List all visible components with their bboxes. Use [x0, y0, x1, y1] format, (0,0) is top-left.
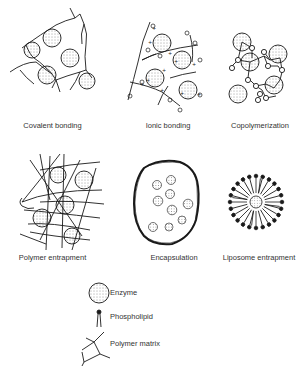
caption-encapsulation: Encapsulation — [144, 253, 204, 262]
legend-label-polymer-matrix: Polymer matrix — [110, 339, 160, 348]
svg-text:+: + — [174, 58, 178, 64]
enzyme-icon — [87, 281, 111, 305]
phospholipid-icon — [93, 309, 105, 329]
ionic-bonding-illustration: +++ +++ +++ ++ — [100, 0, 210, 110]
panel-ionic-bonding: +++ +++ +++ ++ Ionic bonding — [100, 0, 210, 140]
caption-liposome-entrapment: Liposome entrapment — [214, 253, 304, 262]
caption-covalent-bonding: Covalent bonding — [0, 121, 105, 130]
caption-copolymerization: Copolymerization — [220, 121, 300, 130]
panel-covalent-bonding: Covalent bonding — [0, 0, 105, 140]
svg-text:+: + — [146, 77, 150, 83]
panel-liposome-entrapment: Liposome entrapment — [200, 140, 308, 270]
svg-text:+: + — [162, 67, 166, 73]
caption-ionic-bonding: Ionic bonding — [128, 121, 208, 130]
svg-text:+: + — [168, 50, 172, 56]
panel-copolymerization: Copolymerization — [200, 0, 308, 140]
legend-label-phospholipid: Phospholipid — [110, 312, 153, 321]
panel-encapsulation: Encapsulation — [100, 140, 210, 270]
panel-polymer-entrapment: Polymer entrapment — [0, 140, 110, 270]
legend-label-enzyme: Enzyme — [110, 288, 137, 297]
svg-text:+: + — [160, 87, 164, 93]
polymer-entrapment-illustration — [0, 140, 110, 250]
encapsulation-illustration — [100, 140, 210, 250]
svg-text:+: + — [148, 39, 152, 45]
caption-polymer-entrapment: Polymer entrapment — [0, 253, 105, 262]
covalent-bonding-illustration — [0, 0, 105, 105]
copolymerization-illustration — [200, 0, 308, 110]
svg-text:+: + — [192, 61, 196, 67]
polymer-matrix-icon — [80, 330, 110, 366]
liposome-illustration — [200, 140, 308, 250]
svg-text:+: + — [180, 90, 184, 96]
legend: Enzyme Phospholipid Polymer matrix — [80, 280, 230, 374]
